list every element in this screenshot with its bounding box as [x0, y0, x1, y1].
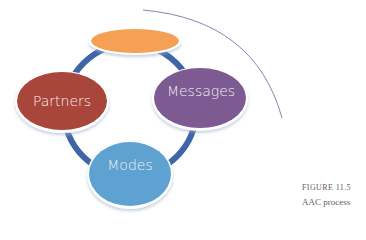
- node-messages: Messages: [152, 67, 248, 131]
- node-messages-label: Messages: [167, 83, 235, 99]
- figure-number: FIGURE 11.5: [302, 180, 351, 195]
- node-modes: Modes: [87, 141, 173, 209]
- node-modes-label: Modes: [107, 157, 152, 173]
- figure-caption: FIGURE 11.5 AAC process: [302, 180, 351, 210]
- node-partners: Partners: [15, 71, 109, 133]
- figure-title: AAC process: [302, 195, 351, 210]
- node-top: [89, 29, 181, 55]
- node-partners-label: Partners: [33, 93, 91, 109]
